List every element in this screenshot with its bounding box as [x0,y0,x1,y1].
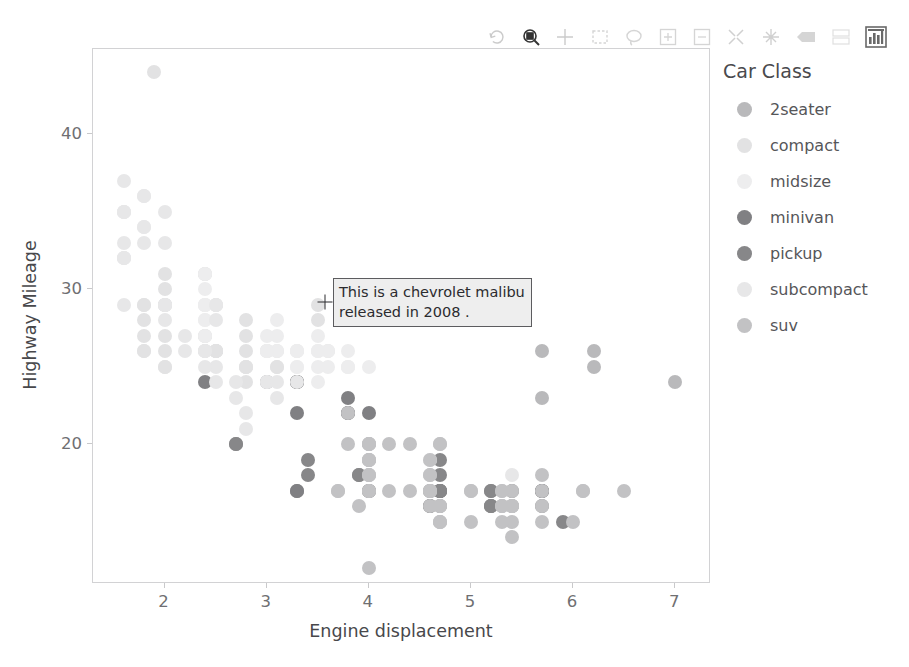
scatter-point[interactable] [158,267,172,281]
scatter-point[interactable] [464,484,478,498]
scatter-point[interactable] [290,484,304,498]
scatter-point[interactable] [137,236,151,250]
scatter-point[interactable] [239,313,253,327]
scatter-point[interactable] [535,499,549,513]
scatter-point[interactable] [137,298,151,312]
scatter-point[interactable] [290,360,304,374]
scatter-point[interactable] [260,344,274,358]
pan-tool-icon[interactable] [761,26,781,48]
scatter-point[interactable] [495,515,509,529]
scatter-point[interactable] [198,282,212,296]
scatter-point[interactable] [311,375,325,389]
scatter-point[interactable] [587,360,601,374]
scatter-point[interactable] [117,174,131,188]
scatter-point[interactable] [576,484,590,498]
scatter-point[interactable] [198,267,212,281]
legend-item-minivan[interactable]: minivan [722,199,902,235]
scatter-point[interactable] [270,313,284,327]
scatter-point[interactable] [158,236,172,250]
scatter-point[interactable] [239,329,253,343]
scatter-point[interactable] [229,375,243,389]
scatter-point[interactable] [311,313,325,327]
scatter-point[interactable] [137,220,151,234]
scatter-point[interactable] [423,468,437,482]
hover-tool-icon[interactable] [831,26,851,48]
scatter-point[interactable] [290,344,304,358]
scatter-point[interactable] [209,298,223,312]
scatter-point[interactable] [209,375,223,389]
scatter-point[interactable] [239,406,253,420]
box-select-tool-icon[interactable] [590,26,610,48]
zoom-in-tool-icon[interactable] [658,26,678,48]
scatter-point[interactable] [403,484,417,498]
scatter-point[interactable] [239,344,253,358]
scatter-point[interactable] [178,329,192,343]
scatter-point[interactable] [158,344,172,358]
scatter-point[interactable] [535,468,549,482]
scatter-point[interactable] [158,360,172,374]
scatter-point[interactable] [147,65,161,79]
scatter-point[interactable] [117,236,131,250]
scatter-point[interactable] [403,437,417,451]
scatter-point[interactable] [535,344,549,358]
scatter-point[interactable] [270,360,284,374]
scatter-point[interactable] [209,313,223,327]
scatter-point[interactable] [158,329,172,343]
legend-item-2seater[interactable]: 2seater [722,91,902,127]
crosshair-tool-icon[interactable] [555,26,575,48]
scatter-point[interactable] [362,453,376,467]
scatter-point[interactable] [535,391,549,405]
scatter-point[interactable] [117,298,131,312]
scatter-point[interactable] [341,406,355,420]
scatter-point[interactable] [229,391,243,405]
scatter-point[interactable] [382,437,396,451]
scatter-point[interactable] [535,484,549,498]
zoom-out-tool-icon[interactable] [692,26,712,48]
wheel-zoom-tool-icon[interactable] [726,26,746,48]
scatter-point[interactable] [270,375,284,389]
scatter-point[interactable] [198,360,212,374]
scatter-point[interactable] [362,484,376,498]
scatter-point[interactable] [158,313,172,327]
scatter-point[interactable] [198,329,212,343]
scatter-point[interactable] [137,344,151,358]
scatter-point[interactable] [229,437,243,451]
scatter-point[interactable] [341,360,355,374]
scatter-point[interactable] [668,375,682,389]
scatter-point[interactable] [137,329,151,343]
scatter-point[interactable] [362,360,376,374]
scatter-point[interactable] [587,344,601,358]
scatter-point[interactable] [433,437,447,451]
scatter-point[interactable] [423,484,437,498]
legend-item-subcompact[interactable]: subcompact [722,271,902,307]
scatter-point[interactable] [117,205,131,219]
scatter-point[interactable] [362,406,376,420]
lasso-select-tool-icon[interactable] [624,26,644,48]
scatter-point[interactable] [341,391,355,405]
scatter-point[interactable] [270,391,284,405]
scatter-point[interactable] [331,484,345,498]
box-zoom-tool-icon[interactable] [521,26,541,48]
scatter-point[interactable] [321,360,335,374]
scatter-point[interactable] [341,437,355,451]
scatter-point[interactable] [382,484,396,498]
scatter-point[interactable] [505,468,519,482]
scatter-point[interactable] [362,561,376,575]
scatter-point[interactable] [321,344,335,358]
scatter-point[interactable] [301,468,315,482]
scatter-point[interactable] [158,282,172,296]
scatter-point[interactable] [290,406,304,420]
scatter-point[interactable] [178,344,192,358]
scatter-point[interactable] [423,499,437,513]
scatter-point[interactable] [535,515,549,529]
scatter-point[interactable] [198,344,212,358]
scatter-point[interactable] [260,329,274,343]
scatter-point[interactable] [495,484,509,498]
scatter-point[interactable] [423,453,437,467]
scatter-point[interactable] [341,344,355,358]
scatter-point[interactable] [239,360,253,374]
legend-item-suv[interactable]: suv [722,307,902,343]
scatter-point[interactable] [158,298,172,312]
scatter-point[interactable] [301,453,315,467]
scatter-point[interactable] [239,422,253,436]
